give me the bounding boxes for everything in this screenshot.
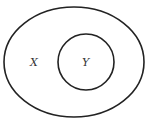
venn-diagram: X Y [0,0,151,125]
set-x-ellipse [4,7,144,117]
set-y-label: Y [82,56,91,69]
set-x-label: X [29,56,39,69]
